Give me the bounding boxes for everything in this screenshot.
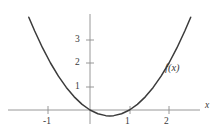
y-tick-label-3: 3 [75,35,80,45]
y-tick-label-2: 2 [75,58,80,68]
plot-canvas [0,0,218,134]
y-tick-label-1: 1 [75,82,80,92]
x-tick-label-2: 2 [164,117,169,127]
x-tick-label-1: 1 [125,117,130,127]
x-tick-label-neg1: -1 [43,117,51,127]
function-curve-label: f(x) [165,63,180,74]
function-plot-figure: -1 1 2 1 2 3 x f(x) [0,0,218,134]
x-axis-label: x [205,101,209,111]
